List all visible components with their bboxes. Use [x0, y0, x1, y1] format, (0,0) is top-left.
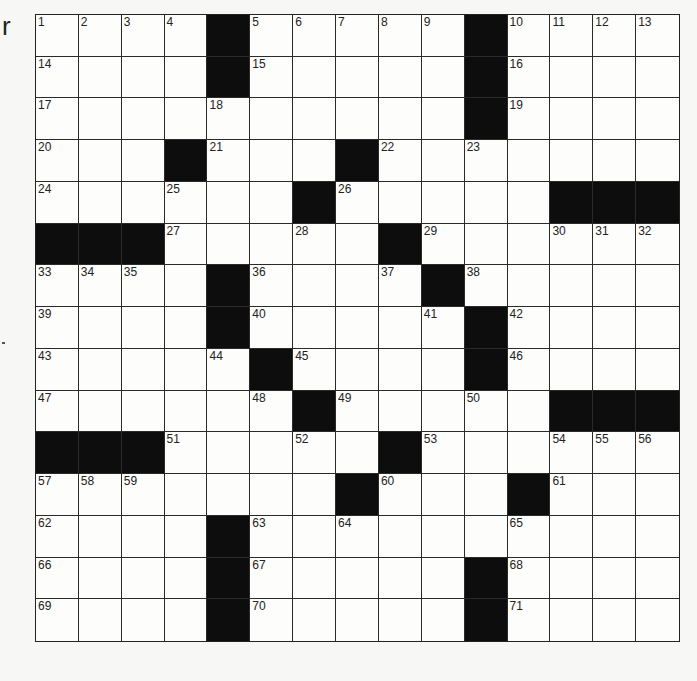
grid-cell[interactable]: 66	[36, 558, 79, 600]
grid-cell[interactable]	[165, 98, 208, 140]
grid-cell[interactable]: 55	[593, 432, 636, 474]
grid-cell[interactable]: 37	[379, 265, 422, 307]
grid-cell[interactable]: 6	[293, 15, 336, 57]
grid-cell[interactable]	[465, 224, 508, 266]
grid-cell[interactable]	[165, 349, 208, 391]
grid-cell[interactable]	[293, 558, 336, 600]
grid-cell[interactable]	[250, 224, 293, 266]
grid-cell[interactable]: 63	[250, 516, 293, 558]
grid-cell[interactable]	[422, 182, 465, 224]
grid-cell[interactable]: 60	[379, 474, 422, 516]
grid-cell[interactable]: 23	[465, 140, 508, 182]
grid-cell[interactable]	[550, 516, 593, 558]
grid-cell[interactable]: 21	[207, 140, 250, 182]
grid-cell[interactable]	[636, 140, 679, 182]
grid-cell[interactable]	[122, 558, 165, 600]
grid-cell[interactable]	[250, 432, 293, 474]
grid-cell[interactable]	[422, 516, 465, 558]
grid-cell[interactable]: 34	[79, 265, 122, 307]
grid-cell[interactable]: 33	[36, 265, 79, 307]
grid-cell[interactable]: 3	[122, 15, 165, 57]
grid-cell[interactable]	[465, 474, 508, 516]
grid-cell[interactable]	[422, 474, 465, 516]
grid-cell[interactable]	[79, 516, 122, 558]
grid-cell[interactable]: 29	[422, 224, 465, 266]
grid-cell[interactable]	[593, 349, 636, 391]
grid-cell[interactable]: 30	[550, 224, 593, 266]
grid-cell[interactable]: 48	[250, 391, 293, 433]
grid-cell[interactable]	[122, 57, 165, 99]
grid-cell[interactable]: 67	[250, 558, 293, 600]
grid-cell[interactable]	[636, 98, 679, 140]
grid-cell[interactable]	[293, 98, 336, 140]
grid-cell[interactable]	[550, 349, 593, 391]
grid-cell[interactable]: 54	[550, 432, 593, 474]
grid-cell[interactable]	[250, 98, 293, 140]
grid-cell[interactable]: 17	[36, 98, 79, 140]
grid-cell[interactable]	[379, 349, 422, 391]
grid-cell[interactable]: 8	[379, 15, 422, 57]
grid-cell[interactable]	[550, 140, 593, 182]
grid-cell[interactable]: 49	[336, 391, 379, 433]
grid-cell[interactable]	[508, 224, 551, 266]
grid-cell[interactable]	[379, 98, 422, 140]
grid-cell[interactable]: 32	[636, 224, 679, 266]
grid-cell[interactable]	[79, 599, 122, 641]
grid-cell[interactable]	[336, 349, 379, 391]
grid-cell[interactable]: 25	[165, 182, 208, 224]
grid-cell[interactable]	[293, 307, 336, 349]
grid-cell[interactable]	[422, 140, 465, 182]
grid-cell[interactable]: 26	[336, 182, 379, 224]
grid-cell[interactable]: 10	[508, 15, 551, 57]
grid-cell[interactable]: 24	[36, 182, 79, 224]
grid-cell[interactable]	[122, 391, 165, 433]
grid-cell[interactable]	[165, 307, 208, 349]
grid-cell[interactable]: 68	[508, 558, 551, 600]
grid-cell[interactable]	[336, 558, 379, 600]
grid-cell[interactable]	[550, 307, 593, 349]
grid-cell[interactable]: 22	[379, 140, 422, 182]
grid-cell[interactable]: 62	[36, 516, 79, 558]
grid-cell[interactable]: 15	[250, 57, 293, 99]
grid-cell[interactable]: 42	[508, 307, 551, 349]
grid-cell[interactable]: 28	[293, 224, 336, 266]
grid-cell[interactable]	[79, 182, 122, 224]
grid-cell[interactable]	[207, 224, 250, 266]
grid-cell[interactable]	[165, 516, 208, 558]
grid-cell[interactable]: 52	[293, 432, 336, 474]
grid-cell[interactable]	[122, 599, 165, 641]
grid-cell[interactable]	[636, 558, 679, 600]
grid-cell[interactable]: 38	[465, 265, 508, 307]
grid-cell[interactable]: 56	[636, 432, 679, 474]
grid-cell[interactable]: 2	[79, 15, 122, 57]
grid-cell[interactable]: 40	[250, 307, 293, 349]
grid-cell[interactable]	[336, 432, 379, 474]
grid-cell[interactable]: 44	[207, 349, 250, 391]
grid-cell[interactable]: 18	[207, 98, 250, 140]
grid-cell[interactable]	[593, 265, 636, 307]
grid-cell[interactable]	[165, 474, 208, 516]
grid-cell[interactable]	[293, 599, 336, 641]
grid-cell[interactable]: 46	[508, 349, 551, 391]
grid-cell[interactable]	[379, 57, 422, 99]
grid-cell[interactable]: 1	[36, 15, 79, 57]
grid-cell[interactable]	[293, 57, 336, 99]
grid-cell[interactable]	[122, 140, 165, 182]
grid-cell[interactable]	[508, 391, 551, 433]
grid-cell[interactable]	[636, 349, 679, 391]
grid-cell[interactable]	[207, 182, 250, 224]
grid-cell[interactable]	[79, 57, 122, 99]
grid-cell[interactable]	[550, 265, 593, 307]
grid-cell[interactable]: 14	[36, 57, 79, 99]
grid-cell[interactable]	[336, 57, 379, 99]
grid-cell[interactable]	[465, 432, 508, 474]
grid-cell[interactable]	[636, 599, 679, 641]
grid-cell[interactable]	[636, 474, 679, 516]
grid-cell[interactable]: 59	[122, 474, 165, 516]
grid-cell[interactable]: 64	[336, 516, 379, 558]
grid-cell[interactable]	[422, 98, 465, 140]
grid-cell[interactable]	[593, 474, 636, 516]
grid-cell[interactable]	[336, 224, 379, 266]
grid-cell[interactable]	[636, 307, 679, 349]
grid-cell[interactable]	[79, 349, 122, 391]
